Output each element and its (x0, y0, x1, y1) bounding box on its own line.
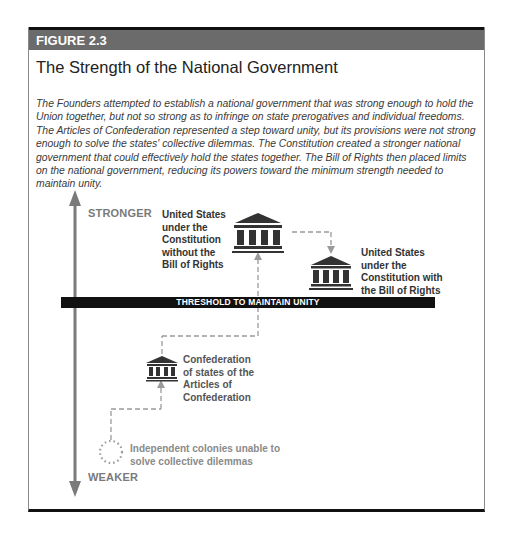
axis-label-weaker: WEAKER (88, 471, 138, 483)
stage-label-confederation: Confederation of states of the Articles … (183, 354, 254, 404)
threshold-band: THRESHOLD TO MAINTAIN UNITY (61, 297, 435, 308)
arrow-down-icon (327, 246, 335, 254)
arrow-down-icon (69, 481, 81, 497)
stage-label-independent-colonies: Independent colonies unable to solve col… (130, 443, 280, 468)
arrow-up-icon (254, 252, 262, 260)
government-building-icon (309, 256, 353, 290)
stage-label-constitution-without-bill-of-rights: United States under the Constitution wit… (162, 209, 226, 272)
government-building-icon (146, 356, 178, 382)
government-building-icon (232, 213, 284, 253)
stage-label-constitution-with-bill-of-rights: United States under the Constitution wit… (361, 247, 443, 297)
axis-label-stronger: STRONGER (88, 207, 152, 219)
arrow-up-icon (69, 190, 81, 206)
strength-axis (69, 190, 81, 497)
dotted-circle-icon (100, 441, 122, 463)
